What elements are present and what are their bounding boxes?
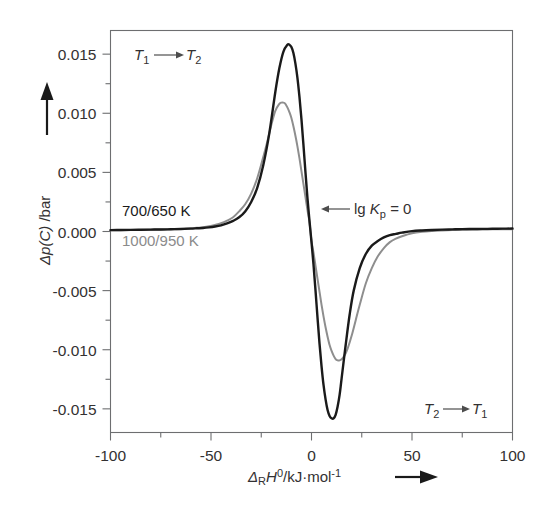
annotation-transition-reverse-text: T2 [424,400,439,420]
y-tick-label: -0.015 [53,401,97,418]
annotation-lg-kp-text: lg Kp = 0 [354,200,411,220]
y-tick-label: -0.005 [53,283,97,300]
chart-figure: -100-50050100 0.0150.0100.0050.000-0.005… [0,0,543,506]
right-arrow-icon [420,471,438,484]
x-axis-title: ΔRH0/kJ·mol-1 [247,467,341,487]
y-tick-label: -0.010 [53,342,97,359]
reverse-arrow-head-icon [462,406,470,413]
x-tick-label: 100 [500,447,526,464]
x-tick-label: 0 [307,447,316,464]
y-tick-label: 0.010 [58,105,97,122]
series-label-700-650K: 700/650 K [122,202,190,219]
y-axis-ticks [103,54,111,409]
x-axis-tick-labels: -100-50050100 [95,447,526,464]
annotation-transition-reverse-text2: T1 [472,400,487,420]
y-tick-label: 0.000 [58,224,97,241]
x-tick-label: 50 [403,447,421,464]
annotation-lg-kp: lg Kp = 0 [321,200,411,220]
x-tick-label: -50 [200,447,223,464]
chart-svg: -100-50050100 0.0150.0100.0050.000-0.005… [0,0,543,506]
y-tick-label: 0.005 [58,164,97,181]
annotation-transition-reverse: T2 T1 [424,400,487,420]
x-axis-title-group: ΔRH0/kJ·mol-1 [247,467,438,487]
x-tick-label: -100 [95,447,126,464]
up-arrow-icon [41,82,54,100]
y-axis-title-group: Δp(C) /bar [36,82,54,266]
y-axis-title: Δp(C) /bar [36,196,53,266]
left-arrow-icon [321,206,329,213]
forward-arrow-head-icon [176,52,184,59]
annotation-transition-forward-text: T1 [134,46,149,66]
y-tick-label: 0.015 [58,46,97,63]
x-axis-ticks [111,433,513,441]
y-axis-tick-labels: 0.0150.0100.0050.000-0.005-0.010-0.015 [53,46,97,418]
annotation-transition-forward: T1 T2 [134,46,201,66]
series-label-1000-950K: 1000/950 K [122,232,199,249]
annotation-transition-forward-text2: T2 [186,46,201,66]
